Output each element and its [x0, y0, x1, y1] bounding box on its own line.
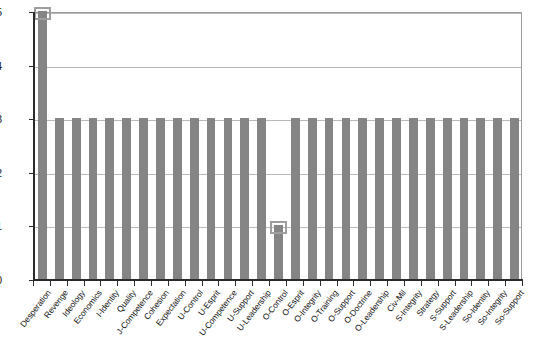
bar[interactable]: [55, 118, 64, 279]
y-tick-label-2: 2: [0, 167, 2, 179]
bar[interactable]: [190, 118, 199, 279]
selection-handle[interactable]: [270, 221, 288, 234]
x-tick-mark: [488, 281, 489, 286]
x-tick-mark: [337, 281, 338, 286]
bar[interactable]: [308, 118, 317, 279]
bar[interactable]: [443, 118, 452, 279]
bar[interactable]: [105, 118, 114, 279]
bar[interactable]: [476, 118, 485, 279]
x-tick-mark: [353, 281, 354, 286]
x-tick-mark: [269, 281, 270, 286]
x-tick-mark: [134, 281, 135, 286]
y-tick-label-5: 5: [0, 6, 2, 18]
x-tick-mark: [421, 281, 422, 286]
x-tick-mark: [303, 281, 304, 286]
x-tick-mark: [286, 281, 287, 286]
x-tick-mark: [505, 281, 506, 286]
bar[interactable]: [72, 118, 81, 279]
category-axis-line: [33, 279, 523, 281]
x-tick-mark: [185, 281, 186, 286]
x-tick-mark: [235, 281, 236, 286]
x-tick-mark: [33, 281, 34, 286]
bar[interactable]: [224, 118, 233, 279]
bar[interactable]: [207, 118, 216, 279]
bar[interactable]: [156, 118, 165, 279]
x-tick-mark: [117, 281, 118, 286]
bar[interactable]: [426, 118, 435, 279]
x-tick-mark: [202, 281, 203, 286]
bar-series: [34, 13, 521, 279]
bar[interactable]: [291, 118, 300, 279]
bar[interactable]: [325, 118, 334, 279]
x-tick-mark: [67, 281, 68, 286]
y-tick-label-1: 1: [0, 220, 2, 232]
x-tick-mark: [387, 281, 388, 286]
bar[interactable]: [510, 118, 519, 279]
x-tick-mark: [320, 281, 321, 286]
bar[interactable]: [375, 118, 384, 279]
bar[interactable]: [240, 118, 249, 279]
x-tick-mark: [438, 281, 439, 286]
y-tick-label-4: 4: [0, 60, 2, 72]
bar[interactable]: [460, 118, 469, 279]
bar-chart: 012345 DesperationRevengeIdeologyEconomi…: [0, 0, 541, 361]
x-tick-mark: [218, 281, 219, 286]
y-tick-label-3: 3: [0, 113, 2, 125]
bar[interactable]: [257, 118, 266, 279]
selection-handle[interactable]: [34, 7, 52, 20]
bar[interactable]: [493, 118, 502, 279]
y-tick-label-0: 0: [0, 274, 2, 286]
x-tick-mark: [252, 281, 253, 286]
x-tick-mark: [151, 281, 152, 286]
bar[interactable]: [342, 118, 351, 279]
x-tick-mark: [471, 281, 472, 286]
plot-area: [33, 12, 522, 280]
bar[interactable]: [38, 11, 47, 279]
x-tick-mark: [50, 281, 51, 286]
value-axis-line: [33, 12, 35, 281]
bar[interactable]: [392, 118, 401, 279]
bar[interactable]: [89, 118, 98, 279]
x-tick-mark: [168, 281, 169, 286]
x-tick-mark: [455, 281, 456, 286]
x-tick-mark: [370, 281, 371, 286]
bar[interactable]: [122, 118, 131, 279]
bar[interactable]: [409, 118, 418, 279]
x-tick-mark: [404, 281, 405, 286]
x-tick-mark: [100, 281, 101, 286]
bar[interactable]: [358, 118, 367, 279]
x-tick-mark: [522, 281, 523, 286]
x-tick-mark: [84, 281, 85, 286]
bar[interactable]: [139, 118, 148, 279]
bar[interactable]: [173, 118, 182, 279]
